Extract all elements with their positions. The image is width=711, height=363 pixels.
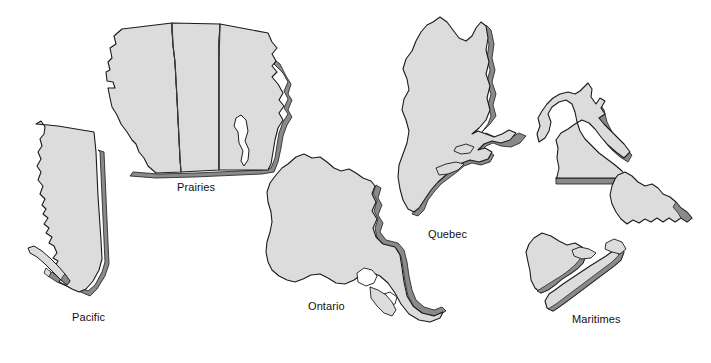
region-label-ontario: Ontario	[308, 300, 345, 312]
region-quebec[interactable]	[398, 17, 526, 216]
region-label-pacific: Pacific	[72, 311, 105, 323]
quebec-landmass	[398, 17, 516, 212]
province-alberta	[106, 23, 181, 173]
ontario-peninsula	[370, 287, 396, 316]
canada-regions-map: Pacific Prairies Ontario Quebec Maritime…	[0, 0, 711, 363]
map-canvas	[0, 0, 711, 363]
region-label-quebec: Quebec	[428, 228, 467, 240]
region-label-prairies: Prairies	[177, 181, 215, 193]
cape-breton-island	[605, 239, 626, 254]
pacific-landmass	[36, 121, 102, 292]
region-pacific[interactable]	[28, 121, 109, 296]
province-manitoba	[219, 24, 284, 170]
region-label-maritimes: Maritimes	[572, 313, 621, 325]
labrador-landmass	[537, 83, 630, 178]
region-maritimes[interactable]	[526, 83, 692, 311]
region-prairies[interactable]	[106, 23, 292, 178]
